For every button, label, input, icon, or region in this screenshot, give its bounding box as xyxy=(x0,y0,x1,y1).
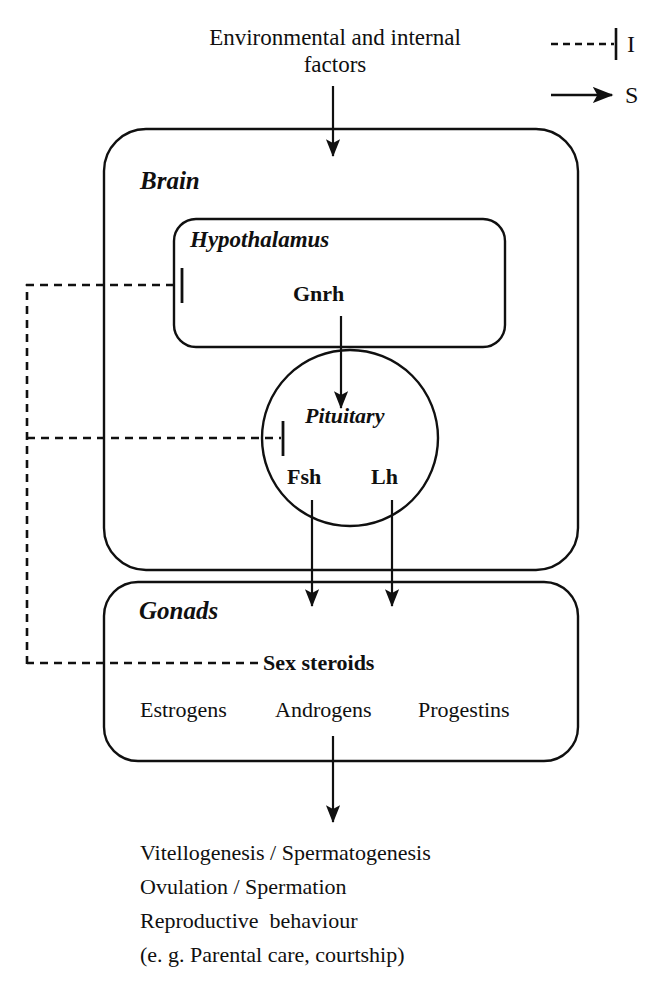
sex-steroids-label: Sex steroids xyxy=(263,650,374,676)
pituitary-circle xyxy=(262,350,438,526)
lh-label: Lh xyxy=(371,464,398,490)
legend-stimulation-label: S xyxy=(625,81,638,109)
output-line-1: Vitellogenesis / Spermatogenesis xyxy=(140,840,431,866)
fsh-label: Fsh xyxy=(287,464,321,490)
output-line-4: (e. g. Parental care, courtship) xyxy=(140,942,405,968)
brain-label: Brain xyxy=(140,166,200,196)
pituitary-label: Pituitary xyxy=(305,403,384,429)
steroid-estrogens-label: Estrogens xyxy=(140,697,227,723)
gnrh-label: Gnrh xyxy=(293,281,344,307)
output-line-2: Ovulation / Spermation xyxy=(140,874,347,900)
diagram-canvas: Environmental and internal factors I S B… xyxy=(0,0,661,996)
top-input-label: Environmental and internal factors xyxy=(160,24,510,78)
legend-inhibition-label: I xyxy=(627,30,635,58)
gonads-label: Gonads xyxy=(139,596,218,626)
steroid-progestins-label: Progestins xyxy=(418,697,510,723)
hypothalamus-label: Hypothalamus xyxy=(190,226,329,253)
output-line-3: Reproductive behaviour xyxy=(140,908,358,934)
legend-inhibition-symbol xyxy=(551,28,616,60)
steroid-androgens-label: Androgens xyxy=(275,697,372,723)
